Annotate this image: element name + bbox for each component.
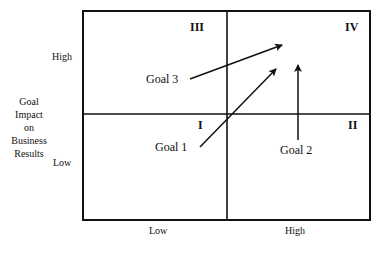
y-axis-title-line: Goal: [0, 95, 58, 108]
goal-1-label: Goal 1: [155, 140, 187, 155]
y-axis-title: Goal Impact on Business Results: [0, 95, 58, 160]
goal-1-arrow: [200, 69, 276, 147]
quadrant-label-i: I: [198, 118, 203, 133]
goal-3-arrow: [190, 45, 282, 79]
y-axis-title-line: Business: [0, 134, 58, 147]
y-axis-title-line: Impact: [0, 108, 58, 121]
quadrant-label-ii: II: [348, 118, 357, 133]
goal-2-label: Goal 2: [280, 143, 312, 158]
y-axis-title-line: on: [0, 121, 58, 134]
y-axis-low-label: Low: [53, 157, 71, 168]
x-axis-high-label: High: [285, 225, 305, 236]
quadrant-label-iv: IV: [345, 20, 358, 35]
y-axis-high-label: High: [52, 51, 72, 62]
goal-3-label: Goal 3: [146, 72, 178, 87]
quadrant-label-iii: III: [190, 20, 204, 35]
y-axis-title-line: Results: [0, 147, 58, 160]
x-axis-low-label: Low: [149, 225, 167, 236]
